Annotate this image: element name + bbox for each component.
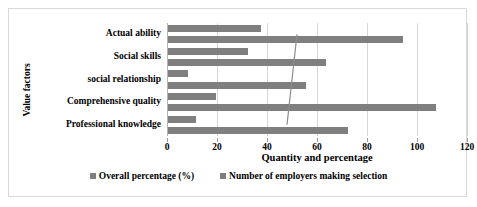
x-tick-label-80: 80 <box>352 142 382 152</box>
y-category-label: Actual ability <box>106 28 165 38</box>
x-tick-label-40: 40 <box>252 142 282 152</box>
overlay-line-path <box>287 34 297 124</box>
plot-area <box>167 23 467 136</box>
legend-item-0[interactable]: Overall percentage (%) <box>90 171 194 181</box>
legend-item-1[interactable]: Number of employers making selection <box>220 171 387 181</box>
y-category-label: Comprehensive quality <box>67 96 165 106</box>
legend-label-0: Overall percentage (%) <box>99 171 194 181</box>
overlay-line-series <box>167 23 467 136</box>
x-tick-label-120: 120 <box>452 142 477 152</box>
y-axis-category-labels: Actual abilitySocial skillssocial relati… <box>9 23 165 136</box>
x-axis-ticks: 020406080100120 <box>167 138 467 152</box>
x-tick-label-60: 60 <box>302 142 332 152</box>
legend: Overall percentage (%) Number of employe… <box>9 171 468 181</box>
y-category-label: Social skills <box>114 51 165 61</box>
gridline-120 <box>467 23 468 136</box>
x-tick-label-0: 0 <box>152 142 182 152</box>
y-category-label: social relationship <box>88 74 165 84</box>
y-category-label: Professional knowledge <box>66 119 165 129</box>
legend-label-1: Number of employers making selection <box>229 171 387 181</box>
x-tick-label-100: 100 <box>402 142 432 152</box>
legend-swatch-icon-1 <box>220 173 226 179</box>
x-tick-label-20: 20 <box>202 142 232 152</box>
x-axis-title: Quantity and percentage <box>167 152 467 163</box>
chart-frame: Value factors Actual abilitySocial skill… <box>8 8 467 197</box>
legend-swatch-icon-0 <box>90 173 96 179</box>
